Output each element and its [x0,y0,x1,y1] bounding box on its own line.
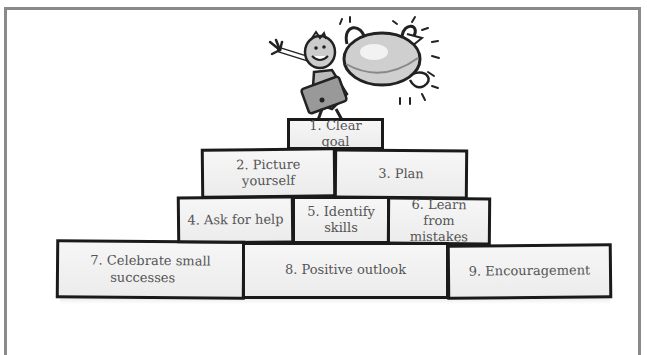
pyramid-block-positive-outlook: 8. Positive outlook [242,242,449,299]
block-label: 6. Learn from mistakes [394,196,484,246]
block-label: 7. Celebrate small successes [90,253,211,287]
block-label-line2: skills [307,220,375,236]
pyramid-block-picture-yourself: 2. Picture yourself [201,147,337,198]
pyramid-block-identify-skills: 5. Identify skills [292,196,390,244]
block-label: 1. Clear goal [294,118,377,151]
pyramid-block-learn-from-mistakes: 6. Learn from mistakes [387,197,491,246]
pyramid-block-plan: 3. Plan [334,148,468,199]
block-label-line1: 5. Identify [307,204,375,220]
block-label: 8. Positive outlook [285,262,406,278]
block-label-line1: 6. Learn from [394,196,484,229]
pyramid-shadow [60,298,610,304]
block-label: 4. Ask for help [187,211,283,228]
block-label: 5. Identify skills [307,204,375,237]
block-label: 2. Picture yourself [208,156,329,190]
pyramid-block-ask-for-help: 4. Ask for help [177,195,294,244]
block-label: 3. Plan [378,166,424,183]
pyramid-block-clear-goal: 1. Clear goal [287,118,384,150]
child-holding-trophy-icon [262,14,462,122]
block-label: 9. Encouragement [469,263,591,281]
pyramid-block-celebrate-small-successes: 7. Celebrate small successes [56,239,246,300]
block-label-line1: 7. Celebrate small [90,253,211,270]
block-label-line2: successes [90,269,211,286]
pyramid-block-encouragement: 9. Encouragement [447,243,613,300]
